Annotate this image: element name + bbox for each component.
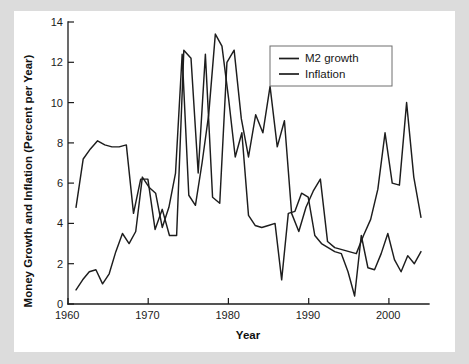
y-tick-label-2: 2	[57, 258, 63, 270]
x-tick-label-1960: 1960	[55, 309, 79, 321]
y-axis-title: Money Growth and Inflation (Percent per …	[22, 54, 34, 307]
y-tick-label-8: 8	[57, 137, 63, 149]
line-chart: Money Growth and Inflation (Percent per …	[14, 11, 455, 352]
legend-label-1: Inflation	[305, 68, 345, 80]
x-tick-label-1970: 1970	[135, 309, 159, 321]
figure-card: Money Growth and Inflation (Percent per …	[14, 11, 455, 352]
y-tick-label-14: 14	[51, 16, 63, 28]
y-tick-label-12: 12	[51, 56, 63, 68]
x-tick-label-1990: 1990	[296, 309, 320, 321]
legend-label-0: M2 growth	[305, 52, 359, 64]
legend: M2 growth Inflation	[270, 46, 392, 86]
x-tick-group: 1960 1970 1980 1990 2000	[55, 298, 400, 321]
y-tick-group: 0 2 4 6 8 10 12 14	[51, 16, 74, 310]
y-tick-label-6: 6	[57, 177, 63, 189]
x-tick-label-1980: 1980	[215, 309, 239, 321]
y-tick-label-4: 4	[57, 217, 63, 229]
x-tick-label-2000: 2000	[376, 309, 400, 321]
y-tick-label-10: 10	[51, 97, 63, 109]
x-axis-title: Year	[236, 329, 261, 341]
